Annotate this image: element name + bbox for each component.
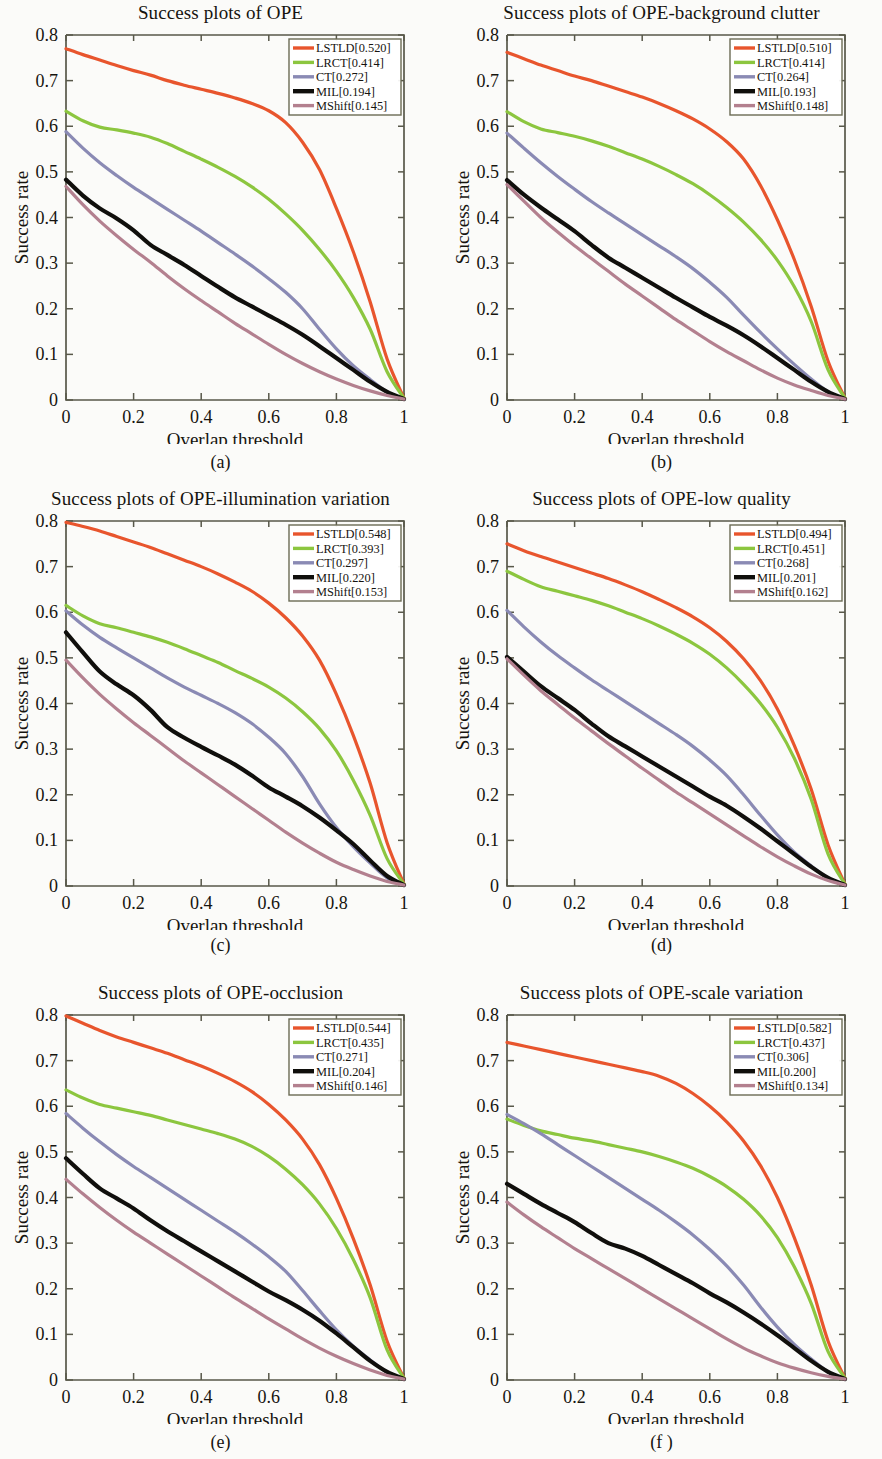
series-line-lrct <box>507 571 845 884</box>
x-tick-label: 0.8 <box>325 893 348 913</box>
y-tick-label: 0.7 <box>477 557 500 577</box>
legend-label-ct: CT[0.272] <box>316 70 368 84</box>
y-tick-label: 0.8 <box>36 1005 59 1025</box>
y-tick-label: 0.3 <box>477 1233 500 1253</box>
y-tick-label: 0.5 <box>36 1142 59 1162</box>
series-line-ct <box>66 132 404 399</box>
y-tick-label: 0.5 <box>477 162 500 182</box>
legend-label-lstld: LSTLD[0.510] <box>757 41 832 55</box>
legend-label-mil: MIL[0.200] <box>757 1065 816 1079</box>
x-tick-label: 0.8 <box>766 1387 789 1407</box>
y-axis-label: Success rate <box>452 657 473 750</box>
x-axis-label: Overlap threshold <box>167 429 304 444</box>
x-tick-label: 1 <box>400 407 409 427</box>
y-tick-label: 0.8 <box>36 25 59 45</box>
y-tick-label: 0.5 <box>477 1142 500 1162</box>
x-tick-label: 1 <box>841 1387 850 1407</box>
y-tick-label: 0.3 <box>36 1233 59 1253</box>
y-tick-label: 0.7 <box>477 1051 500 1071</box>
x-tick-label: 1 <box>841 893 850 913</box>
legend-label-ct: CT[0.268] <box>757 556 809 570</box>
y-tick-label: 0.4 <box>36 1188 59 1208</box>
y-axis-label: Success rate <box>11 171 32 264</box>
y-tick-label: 0 <box>49 876 58 896</box>
legend-a: LSTLD[0.520]LRCT[0.414]CT[0.272]MIL[0.19… <box>289 39 401 115</box>
y-tick-label: 0.5 <box>36 648 59 668</box>
x-tick-label: 0.6 <box>258 1387 281 1407</box>
legend-label-ct: CT[0.297] <box>316 556 368 570</box>
y-tick-label: 0.1 <box>477 1324 500 1344</box>
series-line-mil <box>66 1158 404 1379</box>
x-tick-label: 0.8 <box>325 1387 348 1407</box>
y-tick-label: 0.3 <box>36 253 59 273</box>
legend-label-lstld: LSTLD[0.544] <box>316 1021 391 1035</box>
chart-caption-b: (b) <box>441 452 882 473</box>
x-tick-label: 0.4 <box>631 407 654 427</box>
y-tick-label: 0.8 <box>477 1005 500 1025</box>
x-tick-label: 0 <box>62 893 71 913</box>
chart-caption-f: (f ) <box>441 1432 882 1453</box>
legend-label-lrct: LRCT[0.393] <box>316 542 384 556</box>
y-tick-label: 0.3 <box>36 739 59 759</box>
legend-label-mil: MIL[0.204] <box>316 1065 375 1079</box>
x-tick-label: 0.4 <box>631 1387 654 1407</box>
legend-label-mshift: MShift[0.148] <box>757 99 828 113</box>
series-line-mshift <box>66 660 404 885</box>
y-tick-label: 0 <box>490 390 499 410</box>
x-tick-label: 0.6 <box>699 407 722 427</box>
y-axis-label: Success rate <box>452 171 473 264</box>
legend-label-lstld: LSTLD[0.582] <box>757 1021 832 1035</box>
legend-label-ct: CT[0.271] <box>316 1050 368 1064</box>
chart-panel-c: Success plots of OPE-illumination variat… <box>0 480 441 960</box>
series-line-ct <box>507 1114 845 1379</box>
y-tick-label: 0.6 <box>36 1096 59 1116</box>
series-line-mil <box>507 1184 845 1379</box>
legend-label-lrct: LRCT[0.437] <box>757 1036 825 1050</box>
x-axis-label: Overlap threshold <box>167 1409 304 1424</box>
chart-canvas-e: 00.10.20.30.40.50.60.70.800.20.40.60.81O… <box>0 994 441 1424</box>
y-tick-label: 0.3 <box>477 739 500 759</box>
x-tick-label: 0.8 <box>325 407 348 427</box>
chart-caption-e: (e) <box>0 1432 441 1453</box>
chart-panel-d: Success plots of OPE-low quality00.10.20… <box>441 480 882 960</box>
legend-label-mshift: MShift[0.134] <box>757 1079 828 1093</box>
chart-panel-b: Success plots of OPE-background clutter0… <box>441 0 882 480</box>
y-tick-label: 0.1 <box>36 830 59 850</box>
y-tick-label: 0.7 <box>36 1051 59 1071</box>
legend-label-ct: CT[0.306] <box>757 1050 809 1064</box>
legend-label-lrct: LRCT[0.435] <box>316 1036 384 1050</box>
y-tick-label: 0.1 <box>36 344 59 364</box>
y-tick-label: 0.4 <box>477 208 500 228</box>
x-tick-label: 0.6 <box>258 407 281 427</box>
x-tick-label: 0.6 <box>258 893 281 913</box>
x-tick-label: 0.4 <box>631 893 654 913</box>
legend-label-mshift: MShift[0.153] <box>316 585 387 599</box>
y-tick-label: 0.7 <box>477 71 500 91</box>
y-axis-label: Success rate <box>11 1151 32 1244</box>
chart-caption-c: (c) <box>0 935 441 956</box>
x-tick-label: 1 <box>400 893 409 913</box>
x-tick-label: 0.2 <box>563 1387 586 1407</box>
legend-label-mil: MIL[0.201] <box>757 571 816 585</box>
x-tick-label: 0 <box>62 1387 71 1407</box>
x-tick-label: 0.4 <box>190 1387 213 1407</box>
legend-f: LSTLD[0.582]LRCT[0.437]CT[0.306]MIL[0.20… <box>730 1019 842 1095</box>
chart-caption-d: (d) <box>441 935 882 956</box>
y-tick-label: 0.6 <box>477 602 500 622</box>
y-tick-label: 0.1 <box>477 830 500 850</box>
y-tick-label: 0.7 <box>36 557 59 577</box>
x-tick-label: 0.2 <box>122 893 145 913</box>
x-tick-label: 1 <box>841 407 850 427</box>
legend-label-lrct: LRCT[0.414] <box>316 56 384 70</box>
x-tick-label: 0.6 <box>699 1387 722 1407</box>
y-tick-label: 0 <box>49 390 58 410</box>
y-tick-label: 0.6 <box>477 1096 500 1116</box>
x-tick-label: 0 <box>503 407 512 427</box>
chart-caption-a: (a) <box>0 452 441 473</box>
y-tick-label: 0.2 <box>477 785 500 805</box>
y-tick-label: 0.1 <box>477 344 500 364</box>
x-tick-label: 0.6 <box>699 893 722 913</box>
legend-label-lrct: LRCT[0.414] <box>757 56 825 70</box>
legend-label-mshift: MShift[0.145] <box>316 99 387 113</box>
y-tick-label: 0.2 <box>477 1279 500 1299</box>
